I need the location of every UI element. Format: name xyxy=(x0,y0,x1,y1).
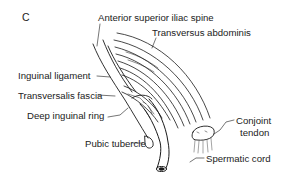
inguinal-ligament-drawing xyxy=(93,40,148,138)
conjoint-tendon-drawing xyxy=(192,126,214,153)
leader-lines xyxy=(97,24,234,162)
pubic-tubercle-drawing xyxy=(145,136,153,148)
transversus-fibres xyxy=(114,33,210,128)
anatomy-drawing xyxy=(0,0,288,174)
spermatic-cord-drawing xyxy=(140,99,169,172)
transversalis-fascia-drawing xyxy=(122,86,162,122)
